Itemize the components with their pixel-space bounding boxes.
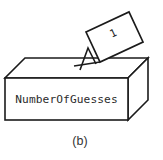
box-and-card-illustration: NumberOfGuesses 1 (b) xyxy=(0,0,163,160)
box-top-face xyxy=(5,58,148,78)
box-label: NumberOfGuesses xyxy=(15,93,118,106)
figure-caption: (b) xyxy=(72,134,87,148)
figure-container: NumberOfGuesses 1 (b) xyxy=(0,0,163,160)
